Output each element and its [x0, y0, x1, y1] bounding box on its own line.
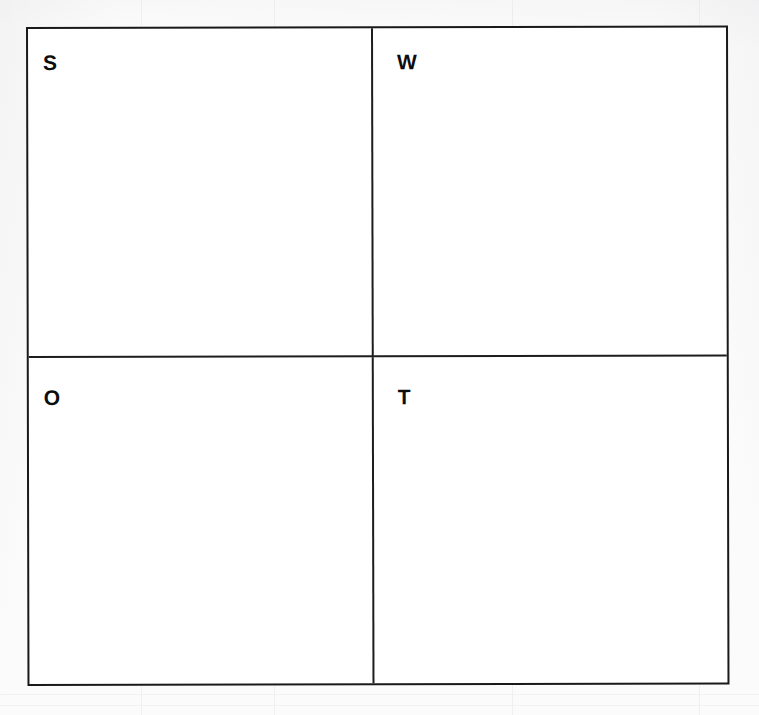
quadrant-content-strengths[interactable]: [28, 80, 372, 356]
swot-quadrant-grid: S W O T: [28, 27, 727, 684]
swot-quadrant-opportunities[interactable]: O: [29, 357, 375, 684]
quadrant-content-opportunities[interactable]: [29, 409, 373, 684]
quadrant-content-threats[interactable]: [374, 408, 728, 683]
quadrant-label-opportunities: O: [44, 387, 61, 408]
swot-quadrant-threats[interactable]: T: [374, 356, 728, 683]
swot-quadrant-weaknesses[interactable]: W: [373, 27, 727, 357]
swot-quadrant-strengths[interactable]: S: [28, 28, 374, 358]
quadrant-label-strengths: S: [43, 52, 57, 73]
swot-matrix-frame: S W O T: [26, 25, 729, 686]
quadrant-content-weaknesses[interactable]: [373, 79, 727, 355]
quadrant-label-threats: T: [398, 386, 411, 407]
scanned-page: S W O T: [0, 0, 759, 715]
quadrant-label-weaknesses: W: [397, 51, 417, 72]
